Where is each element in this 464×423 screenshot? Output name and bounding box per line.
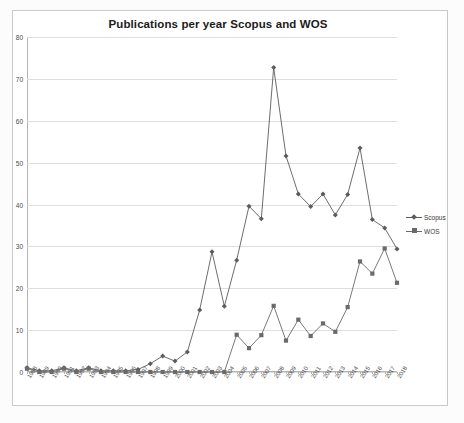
data-point-marker bbox=[25, 367, 29, 371]
data-point-marker bbox=[345, 192, 350, 197]
data-point-marker bbox=[160, 354, 165, 359]
chart-legend: ScopusWOS bbox=[406, 210, 446, 238]
data-point-marker bbox=[111, 370, 115, 374]
data-point-marker bbox=[234, 258, 239, 263]
data-point-marker bbox=[87, 367, 91, 371]
y-axis-tick-label: 0 bbox=[19, 369, 23, 376]
diamond-marker-icon bbox=[406, 213, 422, 221]
y-axis-tick-label: 30 bbox=[16, 243, 23, 250]
data-point-marker bbox=[321, 321, 325, 325]
y-axis-tick-label: 10 bbox=[16, 327, 23, 334]
data-point-marker bbox=[296, 318, 300, 322]
y-axis-tick-label: 60 bbox=[16, 117, 23, 124]
y-axis-tick-label: 40 bbox=[16, 201, 23, 208]
y-axis-tick-label: 70 bbox=[16, 75, 23, 82]
legend-item-scopus[interactable]: Scopus bbox=[406, 210, 446, 224]
data-point-marker bbox=[99, 370, 103, 374]
data-point-marker bbox=[50, 370, 54, 374]
data-point-marker bbox=[198, 370, 202, 374]
data-point-marker bbox=[333, 212, 338, 217]
data-point-marker bbox=[185, 370, 189, 374]
chart-figure: Publications per year Scopus and WOS 010… bbox=[0, 0, 464, 423]
data-point-marker bbox=[259, 333, 263, 337]
data-point-marker bbox=[148, 361, 153, 366]
data-point-marker bbox=[148, 370, 152, 374]
data-point-marker bbox=[197, 308, 202, 313]
data-point-marker bbox=[358, 145, 363, 150]
data-point-marker bbox=[383, 246, 387, 250]
data-point-marker bbox=[333, 330, 337, 334]
data-point-marker bbox=[74, 370, 78, 374]
data-point-marker bbox=[136, 370, 140, 374]
data-point-marker bbox=[247, 346, 251, 350]
data-point-marker bbox=[370, 271, 374, 275]
data-series-layer bbox=[27, 37, 397, 372]
data-point-marker bbox=[62, 367, 66, 371]
data-point-marker bbox=[271, 65, 276, 70]
plot-area: 01020304050607080 1988198919901991199219… bbox=[27, 37, 397, 372]
data-point-marker bbox=[284, 338, 288, 342]
data-point-marker bbox=[222, 370, 226, 374]
chart-title: Publications per year Scopus and WOS bbox=[0, 18, 436, 30]
data-point-marker bbox=[395, 281, 399, 285]
data-point-marker bbox=[124, 370, 128, 374]
data-point-marker bbox=[370, 217, 375, 222]
y-axis-tick-label: 80 bbox=[16, 34, 23, 41]
data-point-marker bbox=[284, 153, 289, 158]
square-marker-icon bbox=[406, 227, 422, 235]
data-point-marker bbox=[272, 304, 276, 308]
data-point-marker bbox=[309, 334, 313, 338]
data-point-marker bbox=[173, 370, 177, 374]
legend-item-wos[interactable]: WOS bbox=[406, 224, 446, 238]
data-point-marker bbox=[210, 249, 215, 254]
data-point-marker bbox=[382, 225, 387, 230]
data-point-marker bbox=[37, 370, 41, 374]
data-point-marker bbox=[346, 305, 350, 309]
data-point-marker bbox=[161, 370, 165, 374]
series-line bbox=[27, 248, 397, 372]
data-point-marker bbox=[222, 304, 227, 309]
data-point-marker bbox=[235, 333, 239, 337]
series-wos bbox=[25, 246, 399, 374]
data-point-marker bbox=[210, 370, 214, 374]
series-scopus bbox=[25, 65, 400, 373]
series-line bbox=[27, 68, 397, 371]
data-point-marker bbox=[358, 259, 362, 263]
y-axis-tick-label: 50 bbox=[16, 159, 23, 166]
legend-label: WOS bbox=[424, 228, 440, 235]
y-axis-tick-label: 20 bbox=[16, 285, 23, 292]
legend-label: Scopus bbox=[424, 214, 446, 221]
